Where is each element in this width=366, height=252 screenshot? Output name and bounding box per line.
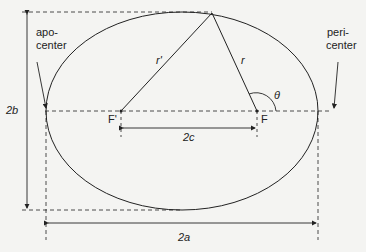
pericenter-label-2: center: [326, 39, 357, 51]
apocenter-pointer: [37, 62, 46, 108]
focus-primary-point: [256, 110, 259, 113]
pericenter-pointer: [334, 62, 338, 108]
apocenter-label-2: center: [36, 39, 67, 51]
semi-minor-label: 2b: [6, 104, 18, 116]
focal-distance-label: 2c: [183, 131, 195, 143]
ellipse-diagram: apo- center peri- center 2b 2a 2c F' F r…: [0, 0, 366, 252]
radius-primary-line: [212, 13, 257, 111]
focus-empty-point: [120, 110, 123, 113]
radius-primary-label: r: [241, 54, 245, 66]
semi-major-label: 2a: [178, 231, 190, 243]
pericenter-label-1: peri-: [327, 26, 349, 38]
radius-secondary-label: r': [156, 54, 162, 66]
apocenter-label-1: apo-: [36, 26, 58, 38]
focus-primary-label: F: [261, 113, 268, 125]
radius-secondary-line: [121, 13, 212, 111]
focus-empty-label: F': [108, 113, 117, 125]
angle-label: θ: [274, 89, 280, 101]
